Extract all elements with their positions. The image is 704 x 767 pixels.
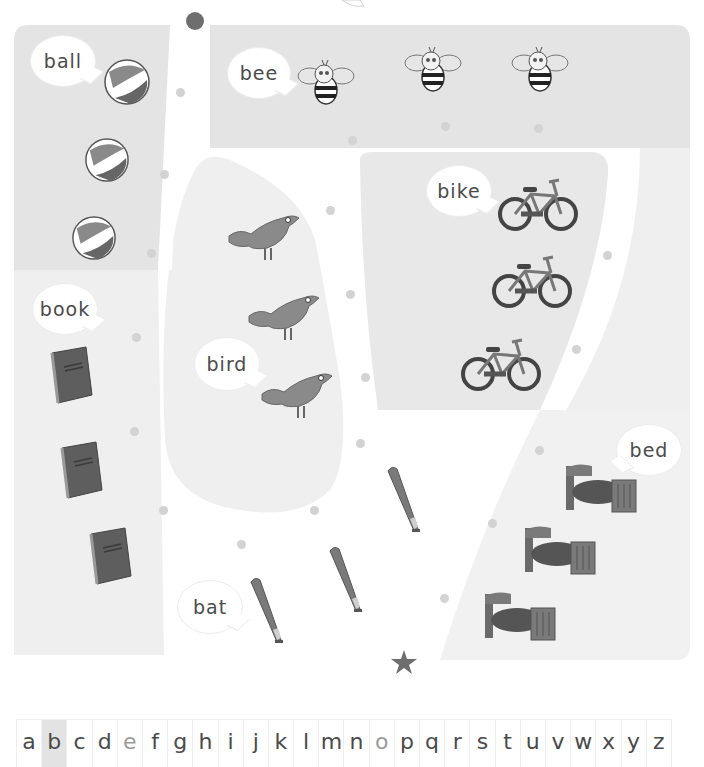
word-label: book <box>40 298 90 320</box>
word-label: bed <box>630 439 669 461</box>
bee-icon <box>403 43 463 95</box>
bed-icon <box>523 524 597 578</box>
path-dot <box>160 170 169 179</box>
word-bubble-book: book <box>32 283 98 335</box>
word-bubble-bee: bee <box>227 47 291 99</box>
bed-icon <box>564 462 638 516</box>
letter-cell: w <box>570 720 595 767</box>
letter-cell: s <box>469 720 494 767</box>
alphabet-strip: a b c d e f g h i j k l m n o p q r s t … <box>16 719 672 767</box>
letter-cell: f <box>142 720 167 767</box>
path-dot <box>488 519 497 528</box>
path-dot <box>441 122 450 131</box>
bed-icon <box>483 590 557 644</box>
letter-cell: g <box>167 720 192 767</box>
letter-cell: k <box>268 720 293 767</box>
path-dot <box>346 290 355 299</box>
path-dot <box>147 249 156 258</box>
path-dot <box>572 345 581 354</box>
letter-cell: x <box>595 720 620 767</box>
word-label: ball <box>44 50 82 72</box>
letter-cell: v <box>545 720 570 767</box>
letter-cell: t <box>495 720 520 767</box>
word-label: bee <box>240 62 278 84</box>
path-dot <box>237 540 246 549</box>
path-dot <box>348 136 357 145</box>
bird-icon <box>260 366 336 422</box>
letter-cell: l <box>293 720 318 767</box>
path-dot <box>310 506 319 515</box>
word-bubble-bike: bike <box>426 165 492 217</box>
finish-star-icon <box>391 650 417 674</box>
word-label: bird <box>207 353 248 375</box>
path-dot <box>326 206 335 215</box>
bicycle-icon <box>460 336 542 392</box>
letter-cell: i <box>218 720 243 767</box>
path-dot <box>535 446 544 455</box>
baseball-bat-icon <box>247 576 287 650</box>
path-dot <box>440 594 449 603</box>
path-dot <box>130 427 139 436</box>
letter-cell: d <box>92 720 117 767</box>
bird-icon <box>227 208 303 264</box>
bicycle-icon <box>497 176 579 232</box>
path-dot <box>356 439 365 448</box>
path-dot <box>534 124 543 133</box>
letter-cell: j <box>243 720 268 767</box>
beach-ball-icon <box>84 137 130 183</box>
bee-icon <box>296 56 356 108</box>
letter-cell-highlighted: b <box>41 720 66 767</box>
path-dot <box>361 373 370 382</box>
letter-cell: p <box>394 720 419 767</box>
word-bubble-bat: bat <box>177 580 243 634</box>
letter-cell: z <box>646 720 672 767</box>
beach-ball-icon <box>71 215 117 261</box>
bee-icon <box>510 43 570 95</box>
baseball-bat-icon <box>384 465 424 539</box>
book-icon <box>48 345 96 407</box>
letter-cell: e <box>117 720 142 767</box>
path-dot <box>159 506 168 515</box>
book-icon <box>87 526 135 588</box>
letter-cell: c <box>66 720 91 767</box>
word-bubble-bird: bird <box>194 337 260 391</box>
letter-cell: q <box>419 720 444 767</box>
baseball-bat-icon <box>326 545 366 619</box>
start-dot-icon <box>186 12 204 30</box>
word-bubble-ball: ball <box>30 35 96 87</box>
path-dot <box>176 88 185 97</box>
word-label: bike <box>437 180 480 202</box>
letter-cell: a <box>16 720 41 767</box>
letter-cell: m <box>318 720 343 767</box>
path-dot <box>132 333 141 342</box>
book-icon <box>58 440 106 502</box>
letter-cell: n <box>343 720 368 767</box>
letter-cell: y <box>621 720 646 767</box>
letter-cell: h <box>192 720 217 767</box>
path-dot <box>603 251 612 260</box>
word-label: bat <box>193 596 227 618</box>
letter-cell: u <box>520 720 545 767</box>
bird-icon <box>247 288 323 344</box>
bicycle-icon <box>491 253 573 309</box>
beach-ball-icon <box>103 58 151 106</box>
letter-cell: r <box>444 720 469 767</box>
letter-cell: o <box>369 720 394 767</box>
